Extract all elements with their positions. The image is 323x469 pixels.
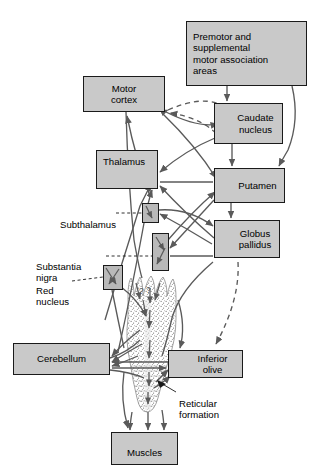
node-caudate-label: Caudate nucleus [215, 112, 282, 135]
brainstem-spinal-cord-icon [127, 276, 176, 412]
svg-text:?: ? [139, 286, 144, 296]
node-globus-pallidus-label: Globus pallidus [215, 228, 279, 251]
node-motor-cortex-label: Motor cortex [84, 83, 164, 106]
node-globus-pallidus[interactable]: Globus pallidus [214, 220, 280, 258]
node-inferior-olive-label: Inferior olive [169, 353, 242, 376]
motor-pathway-diagram: ? ? [0, 0, 323, 469]
node-premotor-supplemental-motor[interactable]: Premotor and supplemental motor associat… [186, 21, 307, 86]
node-muscles-label: Muscles [112, 439, 177, 458]
node-muscles[interactable]: Muscles [111, 432, 178, 465]
node-inferior-olive[interactable]: Inferior olive [168, 350, 243, 378]
node-premotor-label: Premotor and supplemental motor associat… [187, 31, 306, 77]
node-cerebellum-label: Cerebellum [14, 353, 109, 364]
label-subthalamus: Subthalamus [36, 207, 116, 230]
label-reticular-formation: Reticular formation [179, 386, 259, 421]
label-red-nucleus-text: Red nucleus [36, 285, 69, 308]
node-caudate-nucleus[interactable]: Caudate nucleus [214, 103, 283, 144]
label-subthalamus-text: Subthalamus [60, 219, 116, 230]
node-thalamus[interactable]: Thalamus [96, 150, 158, 189]
node-substantia-nigra[interactable] [152, 233, 169, 271]
label-red-nucleus: Red nucleus [36, 273, 102, 308]
node-putamen-label: Putamen [215, 180, 284, 191]
label-reticular-formation-text: Reticular formation [179, 398, 219, 421]
node-thalamus-label: Thalamus [97, 151, 157, 167]
node-putamen[interactable]: Putamen [214, 168, 285, 203]
node-motor-cortex[interactable]: Motor cortex [83, 76, 165, 112]
node-cerebellum[interactable]: Cerebellum [13, 343, 110, 375]
node-subthalamus[interactable] [142, 203, 159, 223]
